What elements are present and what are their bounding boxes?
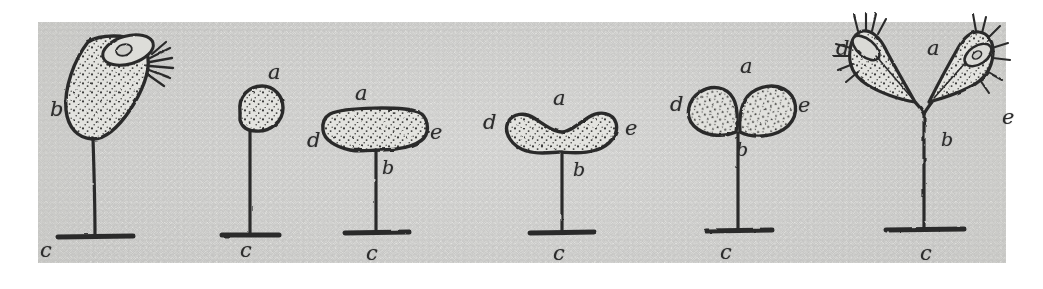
stage-2-group [222,86,283,235]
stage-4-label-a: a [553,88,566,109]
stage-1-label-c: c [40,240,52,261]
stage-3-group [323,108,428,233]
stage-6-label-a: a [927,38,940,59]
stage-2-cell-body [240,86,283,131]
stage-1-base-line [58,236,133,237]
figure-plate: b c a c a d e b c a d e b c a d e b c d … [0,0,1043,289]
stage-5-label-d: d [670,94,683,115]
stage-6-label-b: b [941,130,953,149]
stage-3-label-a: a [355,83,368,104]
stage-2-label-c: c [240,240,252,261]
stage-5-label-e: e [798,95,810,116]
stage-5-label-b: b [736,140,748,159]
stage-6-label-e: e [1002,107,1014,128]
stage-6-junction-right [924,102,932,114]
stage-5-label-a: a [740,56,753,77]
stage-5-lobe-right [740,86,796,136]
stage-6-group [834,13,1010,230]
stage-6-label-d: d [836,38,849,59]
stage-1-label-b: b [50,99,63,120]
stage-4-label-e: e [625,118,637,139]
stage-4-group [507,113,617,233]
stage-1-stalk [93,138,95,236]
stage-6-label-c: c [920,243,932,264]
stage-3-base-line [345,232,409,233]
stage-4-cell-body [507,113,617,153]
stage-3-label-d: d [307,130,320,151]
stage-4-label-d: d [483,112,496,133]
stage-3-label-b: b [382,158,394,177]
stage-6-base-line [886,229,964,230]
stage-4-base-line [530,232,594,233]
stage-4-label-b: b [573,160,585,179]
stage-3-label-c: c [366,243,378,264]
stage-2-label-a: a [268,62,281,83]
stage-3-cell-body [323,108,428,151]
stage-5-lobe-left [688,87,737,135]
stage-5-base-line [706,230,772,231]
stage-6-junction-left [915,102,924,114]
stage-3-label-e: e [430,122,442,143]
stage-1-group [58,29,173,237]
stage-5-label-c: c [720,242,732,263]
stage-4-label-c: c [553,243,565,264]
line-drawing-layer [0,0,1043,289]
